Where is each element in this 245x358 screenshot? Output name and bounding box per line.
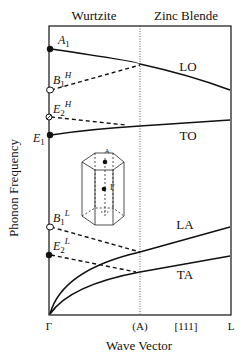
inset-a-point <box>103 160 108 165</box>
inset-a-label: A <box>104 147 109 155</box>
lo-branch <box>51 49 230 90</box>
xtick-l: L <box>228 320 235 332</box>
e2l-marker <box>46 252 52 258</box>
a1-label: A1 <box>57 33 70 49</box>
zinc-blende-header: Zinc Blende <box>154 8 218 23</box>
xtick-gamma: Γ <box>46 320 52 332</box>
xtick-111: [111] <box>174 320 197 332</box>
a1-marker <box>47 46 53 52</box>
b1l-label: B1L <box>53 208 70 227</box>
e2h-label: E2H <box>52 99 72 118</box>
wurtzite-header: Wurtzite <box>72 8 117 23</box>
b1h-label: B1H <box>53 70 72 89</box>
e1-marker <box>47 132 53 138</box>
x-axis-title: Wave Vector <box>106 338 173 353</box>
xtick-a: (A) <box>132 320 148 333</box>
y-axis-title: Phonon Frequency <box>6 139 21 237</box>
inset-gamma-label: Γ <box>110 183 115 192</box>
b1h-marker <box>47 87 54 93</box>
ta-branch <box>50 256 230 314</box>
e2l-label: E2L <box>52 236 70 255</box>
lo-label: LO <box>179 59 196 74</box>
e1-label: E1 <box>32 131 45 147</box>
e2h-marker <box>46 114 52 120</box>
inset-gamma-point <box>102 187 107 192</box>
to-branch <box>51 120 230 135</box>
to-label: TO <box>179 128 196 143</box>
phonon-dispersion-diagram: Wurtzite Zinc Blende A1 B1H E2H E1 B1L E… <box>0 0 245 358</box>
ta-label: TA <box>177 267 194 282</box>
la-branch <box>50 227 230 314</box>
e2l-folded-branch <box>51 255 136 272</box>
la-label: LA <box>176 217 194 232</box>
e2h-folded-branch <box>51 117 126 125</box>
